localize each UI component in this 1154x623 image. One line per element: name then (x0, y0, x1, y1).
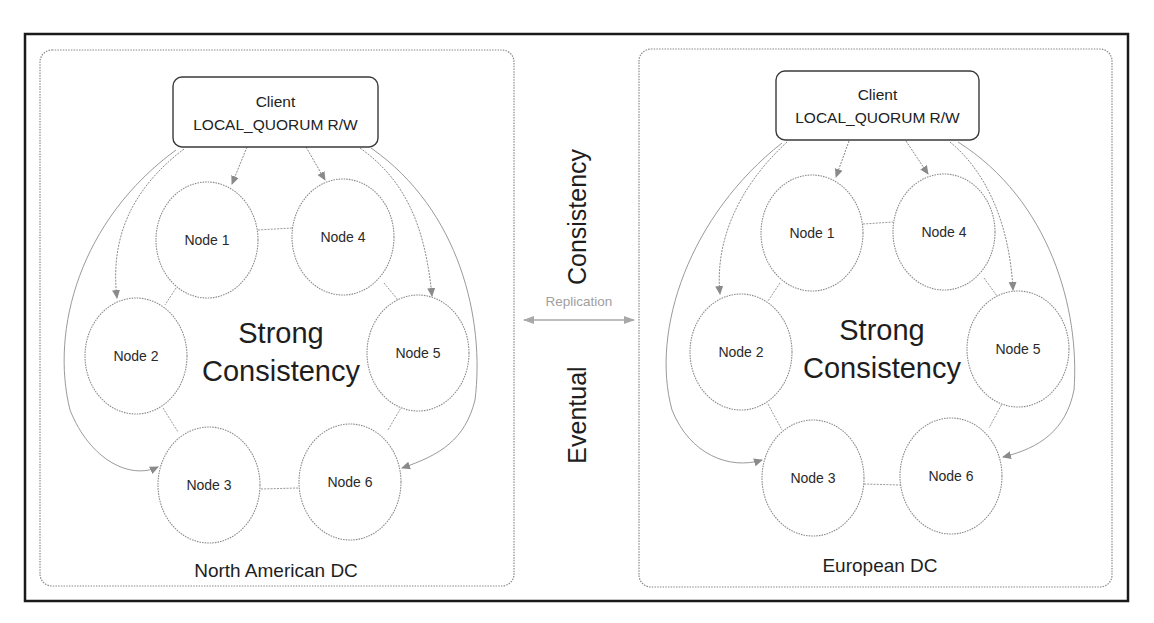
link-node2-node3 (163, 408, 178, 432)
arrow-client-to-node-1 (232, 147, 247, 184)
node-4: Node 4 (292, 179, 394, 295)
client-box: Client LOCAL_QUORUM R/W (776, 71, 979, 140)
node-1: Node 1 (156, 182, 258, 298)
node-3: Node 3 (762, 420, 864, 536)
link-node4-node5 (384, 283, 398, 300)
svg-text:Node 5: Node 5 (995, 341, 1040, 357)
svg-text:Node 2: Node 2 (718, 344, 763, 360)
datacenter-north-american: Client LOCAL_QUORUM R/W Node 1 Node 4 No… (40, 50, 514, 586)
link-node1-node2 (768, 283, 780, 301)
link-node1-node4 (258, 228, 292, 230)
link-node1-node2 (165, 288, 176, 305)
replication-label: Replication (546, 294, 613, 309)
link-node2-node3 (768, 404, 782, 430)
node-2: Node 2 (85, 298, 187, 414)
svg-text:Node 4: Node 4 (921, 224, 966, 240)
client-box: Client LOCAL_QUORUM R/W (173, 77, 378, 147)
node-3: Node 3 (158, 427, 260, 543)
arrow-client-to-node-4 (306, 147, 325, 180)
svg-text:Node 1: Node 1 (789, 225, 834, 241)
client-consistency-level: LOCAL_QUORUM R/W (795, 109, 960, 126)
node-5: Node 5 (967, 291, 1069, 407)
strong-consistency-label-line1: Strong (839, 314, 924, 346)
replication-zone: Consistency Eventual Replication (524, 148, 634, 463)
link-node5-node6 (989, 402, 1003, 428)
svg-text:Node 1: Node 1 (184, 232, 229, 248)
node-1: Node 1 (761, 175, 863, 291)
client-title: Client (858, 86, 898, 103)
strong-consistency-label-line2: Consistency (803, 352, 961, 384)
arrow-client-to-node-1 (836, 141, 849, 177)
svg-text:Node 3: Node 3 (186, 477, 231, 493)
vertical-label-eventual: Eventual (563, 366, 591, 463)
link-node3-node6 (261, 488, 298, 489)
link-node3-node6 (864, 484, 900, 485)
cassandra-multi-dc-diagram: Client LOCAL_QUORUM R/W Node 1 Node 4 No… (0, 0, 1154, 623)
svg-text:Node 4: Node 4 (320, 229, 365, 245)
svg-text:Node 2: Node 2 (113, 348, 158, 364)
dc-label: European DC (822, 555, 937, 576)
link-node5-node6 (388, 406, 402, 430)
arrow-client-to-node-4 (906, 141, 928, 174)
client-consistency-level: LOCAL_QUORUM R/W (193, 116, 358, 133)
link-node4-node5 (984, 278, 997, 296)
node-4: Node 4 (893, 174, 995, 290)
svg-text:Node 6: Node 6 (928, 468, 973, 484)
link-node1-node4 (863, 222, 893, 224)
vertical-label-consistency: Consistency (563, 148, 591, 285)
node-2: Node 2 (690, 294, 792, 410)
svg-text:Node 3: Node 3 (790, 470, 835, 486)
strong-consistency-label-line1: Strong (238, 317, 323, 349)
client-title: Client (256, 93, 296, 110)
svg-text:Node 6: Node 6 (327, 474, 372, 490)
dc-label: North American DC (194, 560, 358, 581)
node-6: Node 6 (299, 424, 401, 540)
svg-text:Node 5: Node 5 (395, 345, 440, 361)
node-5: Node 5 (367, 295, 469, 411)
datacenter-european: Client LOCAL_QUORUM R/W Node 1 Node 4 No… (639, 49, 1112, 587)
strong-consistency-label-line2: Consistency (202, 355, 360, 387)
node-6: Node 6 (900, 418, 1002, 534)
